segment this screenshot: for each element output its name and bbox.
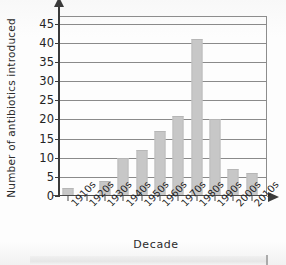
bars-group — [59, 16, 267, 196]
y-axis-tick-label: 40 — [39, 36, 54, 50]
scan-bottom-artifact — [30, 256, 268, 265]
bar-slot — [132, 16, 150, 196]
bar-slot — [96, 16, 114, 196]
scan-bottom-mark — [266, 255, 268, 265]
y-axis-tick-label: 20 — [39, 112, 54, 126]
x-axis-title: Decade — [56, 238, 256, 251]
y-axis-tick-label: 30 — [39, 74, 54, 88]
bar-slot — [188, 16, 206, 196]
y-axis-tick-label: 0 — [47, 189, 54, 203]
bar-slot — [243, 16, 261, 196]
bar-slot — [114, 16, 132, 196]
bar-slot — [151, 16, 169, 196]
y-axis-tick-label: 35 — [39, 55, 54, 69]
plot-area: 051015202530354045 — [59, 16, 267, 196]
y-axis-tickmark — [55, 196, 60, 197]
bar-slot — [224, 16, 242, 196]
y-axis-arrow-icon — [54, 0, 64, 7]
bar — [191, 39, 202, 196]
bar-slot — [206, 16, 224, 196]
y-axis-tick-label: 5 — [47, 170, 54, 184]
y-axis-tick-label: 25 — [39, 93, 54, 107]
y-axis-title: Number of antibiotics introduced — [2, 8, 20, 208]
y-axis-tick-label: 15 — [39, 132, 54, 146]
bar-chart-figure: Number of antibiotics introduced 0510152… — [0, 0, 286, 265]
y-axis-tick-label: 10 — [39, 151, 54, 165]
y-axis-tick-label: 45 — [39, 17, 54, 31]
bar-slot — [169, 16, 187, 196]
bar-slot — [59, 16, 77, 196]
y-axis-line — [58, 5, 60, 196]
bar-slot — [77, 16, 95, 196]
